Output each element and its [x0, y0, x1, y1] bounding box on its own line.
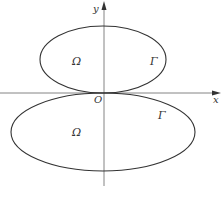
upper-boundary-label: Γ — [150, 56, 158, 67]
y-axis-arrow-icon — [102, 1, 107, 10]
upper-boundary-curve — [40, 26, 166, 93]
diagram-canvas — [0, 0, 223, 197]
y-axis-label: y — [93, 4, 99, 14]
upper-region-label: Ω — [72, 56, 81, 67]
x-axis-label: x — [213, 95, 219, 105]
lower-boundary-label: Γ — [158, 110, 166, 121]
origin-label: O — [94, 95, 102, 105]
lower-boundary-curve — [11, 93, 195, 171]
lower-region-label: Ω — [72, 127, 81, 138]
